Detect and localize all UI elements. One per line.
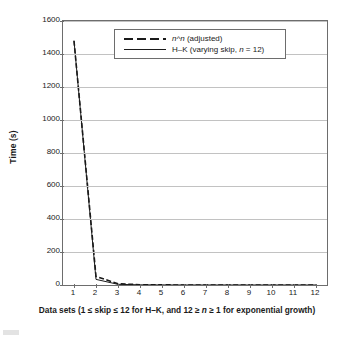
gridline bbox=[63, 252, 327, 253]
x-tick-label: 1 bbox=[61, 288, 85, 298]
gridline bbox=[63, 186, 327, 187]
x-tick-label: 11 bbox=[281, 288, 305, 298]
x-tick-label: 3 bbox=[105, 288, 129, 298]
x-axis-tick-labels: 123456789101112 bbox=[62, 288, 328, 302]
y-tick-label: 1000 bbox=[20, 115, 60, 123]
y-tick-label: 1200 bbox=[20, 82, 60, 90]
x-tick-label: 5 bbox=[149, 288, 173, 298]
y-tick-mark bbox=[60, 153, 64, 154]
y-tick-mark bbox=[60, 87, 64, 88]
y-tick-mark bbox=[60, 285, 64, 286]
legend-item-hk: H–K (varying skip, n = 12) bbox=[115, 44, 285, 55]
scan-artifact bbox=[3, 330, 19, 335]
y-tick-mark bbox=[60, 54, 64, 55]
series-line bbox=[74, 41, 316, 285]
y-tick-mark bbox=[60, 219, 64, 220]
gridline bbox=[63, 219, 327, 220]
legend-nn-rest: (adjusted) bbox=[185, 34, 223, 43]
y-tick-mark bbox=[60, 186, 64, 187]
gridline bbox=[63, 87, 327, 88]
y-tick-mark bbox=[60, 21, 64, 22]
legend-swatch-solid bbox=[122, 44, 168, 55]
x-tick-label: 2 bbox=[83, 288, 107, 298]
legend-label-nn: n^n (adjusted) bbox=[168, 33, 222, 44]
x-tick-label: 6 bbox=[171, 288, 195, 298]
y-tick-label: 400 bbox=[20, 214, 60, 222]
x-tick-label: 4 bbox=[127, 288, 151, 298]
legend-item-nn: n^n (adjusted) bbox=[115, 33, 285, 44]
x-tick-label: 12 bbox=[303, 288, 327, 298]
x-tick-label: 7 bbox=[193, 288, 217, 298]
chart-legend: n^n (adjusted) H–K (varying skip, n = 12… bbox=[114, 29, 286, 59]
x-tick-label: 8 bbox=[215, 288, 239, 298]
chart-figure: Time (s) 02004006008001000120014001600 1… bbox=[0, 0, 354, 340]
y-tick-label: 0 bbox=[20, 280, 60, 288]
y-tick-label: 1400 bbox=[20, 49, 60, 57]
y-tick-mark bbox=[60, 120, 64, 121]
y-tick-label: 600 bbox=[20, 181, 60, 189]
legend-hk-base: H–K (varying skip, bbox=[172, 45, 239, 54]
x-axis-title-part2: ≥ 1 for exponential growth) bbox=[207, 305, 315, 315]
x-axis-title-part1: Data sets (1 ≤ skip ≤ 12 for H–K, and 12… bbox=[39, 305, 202, 315]
y-tick-label: 800 bbox=[20, 148, 60, 156]
legend-hk-rest: = 12) bbox=[244, 45, 265, 54]
y-tick-label: 1600 bbox=[20, 16, 60, 24]
gridline bbox=[63, 153, 327, 154]
legend-nn-exp: ^n bbox=[176, 34, 184, 43]
gridline bbox=[63, 21, 327, 22]
y-axis-title: Time (s) bbox=[8, 112, 18, 182]
series-line bbox=[74, 41, 316, 285]
y-tick-label: 200 bbox=[20, 247, 60, 255]
x-tick-label: 10 bbox=[259, 288, 283, 298]
legend-label-hk: H–K (varying skip, n = 12) bbox=[168, 44, 264, 55]
y-tick-mark bbox=[60, 252, 64, 253]
legend-swatch-dashed bbox=[122, 33, 168, 44]
gridline bbox=[63, 120, 327, 121]
plot-area bbox=[62, 20, 328, 286]
x-axis-title: Data sets (1 ≤ skip ≤ 12 for H–K, and 12… bbox=[0, 305, 354, 315]
x-tick-label: 9 bbox=[237, 288, 261, 298]
y-axis-tick-labels: 02004006008001000120014001600 bbox=[18, 0, 60, 340]
